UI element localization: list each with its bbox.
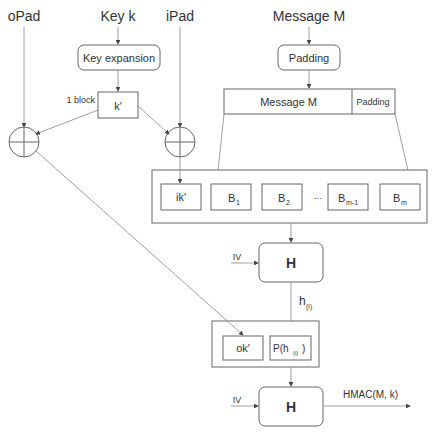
- message-bar-padding: Padding: [356, 97, 389, 107]
- iv2-label: IV: [233, 395, 242, 405]
- ik-label: ik′: [176, 191, 186, 203]
- bm1-label: B: [338, 192, 345, 204]
- svg-text:1: 1: [236, 199, 240, 206]
- svg-text:m: m: [401, 199, 407, 206]
- kprime-label: k′: [114, 100, 122, 112]
- b2-label: B: [278, 192, 285, 204]
- hash-h1-label: H: [286, 255, 296, 271]
- hash-h2-label: H: [286, 399, 296, 415]
- phi-label: P(h: [273, 343, 289, 354]
- svg-text:2: 2: [286, 199, 290, 206]
- message-bar-message: Message M: [260, 96, 317, 108]
- hmac-diagram: oPad Key k iPad Message M Key expansion …: [0, 0, 436, 435]
- ok-label: ok′: [236, 342, 250, 354]
- hi-label: h: [299, 294, 306, 308]
- svg-text:(i): (i): [306, 303, 312, 311]
- message-label: Message M: [273, 8, 345, 24]
- ipad-label: iPad: [166, 8, 194, 24]
- svg-text:(i): (i): [293, 350, 298, 356]
- bm1-box: [328, 184, 368, 210]
- svg-text:m-1: m-1: [346, 199, 358, 206]
- key-label: Key k: [100, 8, 136, 24]
- bm-label: B: [393, 192, 400, 204]
- opad-label: oPad: [8, 8, 41, 24]
- ellipsis: …: [314, 191, 323, 201]
- block-note: 1 block: [66, 95, 95, 105]
- hmac-output-label: HMAC(M, k): [343, 389, 398, 400]
- svg-text:): ): [302, 343, 305, 354]
- key-expansion-label: Key expansion: [83, 52, 155, 64]
- iv1-label: IV: [233, 252, 242, 262]
- padding-label: Padding: [289, 52, 329, 64]
- b1-label: B: [228, 192, 235, 204]
